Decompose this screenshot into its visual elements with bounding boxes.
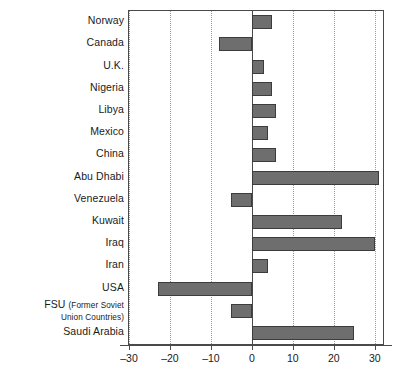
x-tick-mark [375, 345, 376, 350]
category-axis-labels: NorwayCanadaU.K.NigeriaLibyaMexicoChinaA… [0, 10, 124, 345]
x-tick-mark [170, 345, 171, 350]
x-tick-label: –20 [150, 352, 190, 364]
bar [252, 326, 354, 340]
category-label: Iran [0, 259, 124, 270]
x-tick-mark [252, 345, 253, 350]
x-tick-label: –30 [109, 352, 149, 364]
x-tick-mark [211, 345, 212, 350]
category-label: USA [0, 282, 124, 293]
bar [252, 104, 277, 118]
category-label: Canada [0, 37, 124, 48]
bar [158, 282, 252, 296]
category-label: Mexico [0, 126, 124, 137]
gridline--30 [129, 11, 130, 344]
bar [231, 193, 251, 207]
category-label: China [0, 148, 124, 159]
x-tick-label: 0 [232, 352, 272, 364]
x-tick-label: 30 [355, 352, 395, 364]
bar [252, 259, 268, 273]
category-label: Libya [0, 104, 124, 115]
x-tick-label: 10 [273, 352, 313, 364]
bar [252, 237, 375, 251]
category-label: Abu Dhabi [0, 171, 124, 182]
category-label: Kuwait [0, 215, 124, 226]
x-tick-mark [129, 345, 130, 350]
bar [231, 304, 251, 318]
bar-chart: NorwayCanadaU.K.NigeriaLibyaMexicoChinaA… [0, 0, 397, 379]
x-tick-mark [293, 345, 294, 350]
category-label: Norway [0, 15, 124, 26]
bar [252, 148, 277, 162]
x-tick-label: –10 [191, 352, 231, 364]
category-label: Nigeria [0, 82, 124, 93]
category-label: U.K. [0, 60, 124, 71]
bar [219, 37, 252, 51]
bar [252, 215, 342, 229]
plot-area [128, 10, 384, 345]
category-label: FSU (Former SovietUnion Countries) [0, 299, 124, 324]
category-label: Saudi Arabia [0, 326, 124, 337]
x-tick-mark [334, 345, 335, 350]
bar [252, 60, 264, 74]
bar [252, 171, 379, 185]
x-axis-line [120, 345, 392, 346]
category-label: Venezuela [0, 193, 124, 204]
bar [252, 126, 268, 140]
bar [252, 15, 272, 29]
x-tick-label: 20 [314, 352, 354, 364]
category-label: Iraq [0, 237, 124, 248]
bar [252, 82, 272, 96]
